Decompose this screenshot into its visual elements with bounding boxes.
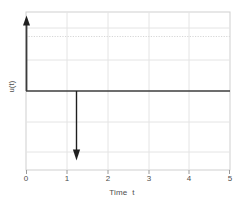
xtick-label-1: 1 xyxy=(58,174,76,183)
impulse-plot-svg xyxy=(0,0,244,207)
y-axis-label: u(t) xyxy=(7,67,16,107)
xtick-label-4: 4 xyxy=(180,174,198,183)
xtick-label-3: 3 xyxy=(140,174,158,183)
x-axis-label: Time t xyxy=(0,188,244,197)
xtick-label-5: 5 xyxy=(221,174,239,183)
chart-figure: 0 1 2 3 4 5 Time t u(t) xyxy=(0,0,244,207)
xtick-label-2: 2 xyxy=(99,174,117,183)
x-axis-ticks xyxy=(27,170,230,174)
xtick-label-0: 0 xyxy=(17,174,35,183)
